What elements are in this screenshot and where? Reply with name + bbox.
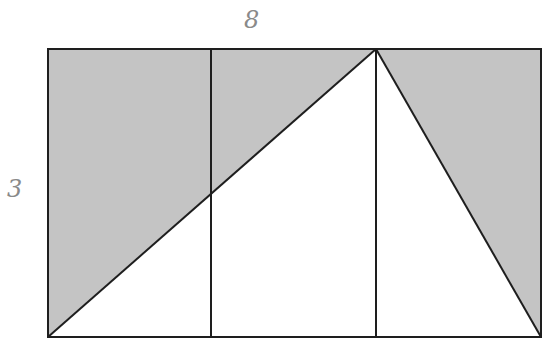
left-height-label: 3	[7, 177, 22, 201]
geometry-figure	[0, 0, 545, 349]
top-length-label: 8	[244, 8, 259, 32]
